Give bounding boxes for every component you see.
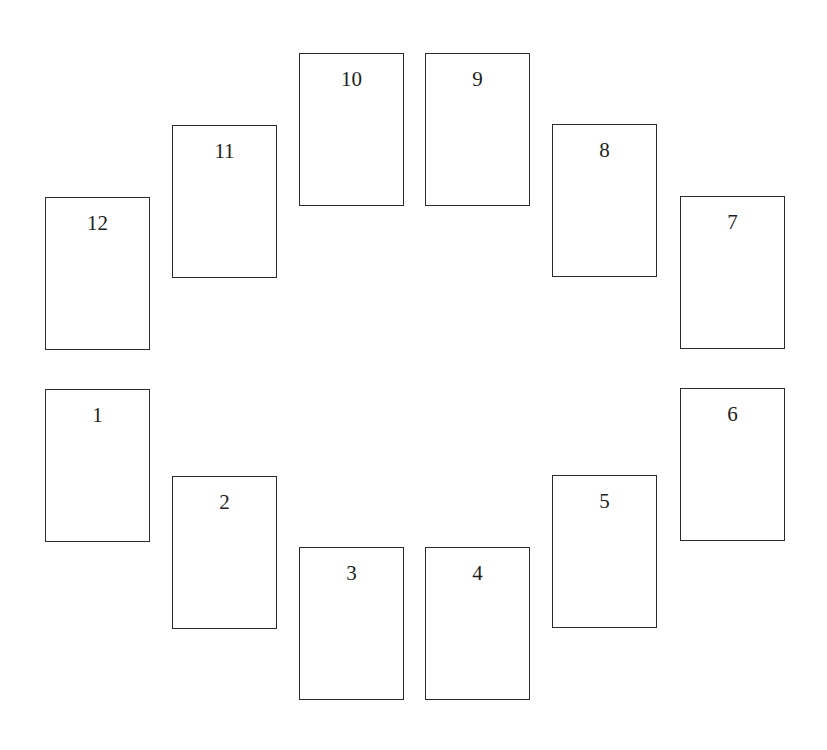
card-number: 8 xyxy=(553,140,656,161)
card-9: 9 xyxy=(425,53,530,206)
card-spread-diagram: 1 2 3 4 5 6 7 8 9 10 11 12 xyxy=(0,0,827,750)
card-3: 3 xyxy=(299,547,404,700)
card-number: 6 xyxy=(681,404,784,425)
card-number: 3 xyxy=(300,563,403,584)
card-6: 6 xyxy=(680,388,785,541)
card-number: 4 xyxy=(426,563,529,584)
card-number: 9 xyxy=(426,69,529,90)
card-number: 5 xyxy=(553,491,656,512)
card-8: 8 xyxy=(552,124,657,277)
card-5: 5 xyxy=(552,475,657,628)
card-2: 2 xyxy=(172,476,277,629)
card-11: 11 xyxy=(172,125,277,278)
card-number: 1 xyxy=(46,405,149,426)
card-number: 12 xyxy=(46,213,149,234)
card-number: 11 xyxy=(173,141,276,162)
card-number: 7 xyxy=(681,212,784,233)
card-7: 7 xyxy=(680,196,785,349)
card-10: 10 xyxy=(299,53,404,206)
card-12: 12 xyxy=(45,197,150,350)
card-1: 1 xyxy=(45,389,150,542)
card-number: 10 xyxy=(300,69,403,90)
card-number: 2 xyxy=(173,492,276,513)
card-4: 4 xyxy=(425,547,530,700)
